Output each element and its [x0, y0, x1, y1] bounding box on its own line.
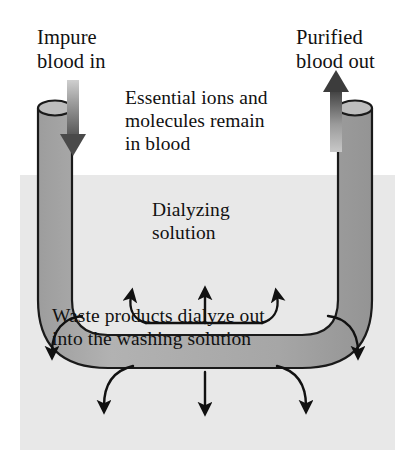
label-impure-blood-in: Impure blood in	[37, 25, 106, 73]
label-essential-ions-and-molecules: Essential ions and molecules remain in b…	[125, 86, 268, 155]
label-dialyzing-solution: Dialyzing solution	[152, 198, 230, 244]
dialysis-diagram: Impure blood in Purified blood out Essen…	[0, 0, 411, 464]
purified-blood-outlet-tube	[338, 101, 372, 116]
label-purified-blood-out: Purified blood out	[296, 25, 375, 73]
label-waste-products-dialyze-out: Waste products dialyze out into the wash…	[52, 304, 265, 350]
impure-blood-inlet-tube	[38, 101, 72, 116]
